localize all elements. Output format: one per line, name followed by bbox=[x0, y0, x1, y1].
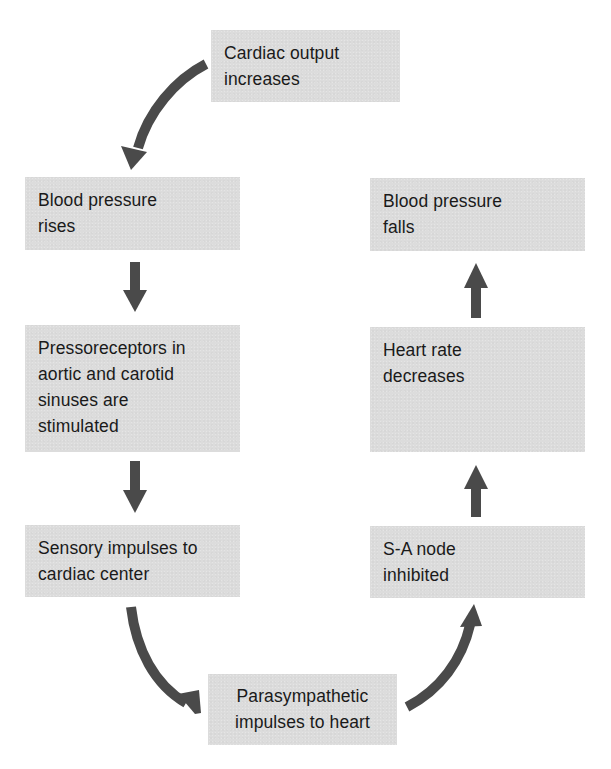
node-text-line: sinuses are bbox=[38, 387, 228, 413]
arrowhead-down-icon bbox=[123, 490, 147, 513]
node-text-line: rises bbox=[38, 213, 228, 239]
node-text-line: inhibited bbox=[383, 562, 573, 588]
arrow-sensory-to-parasympathetic bbox=[131, 607, 186, 703]
node-cardiac-output: Cardiac output increases bbox=[211, 30, 400, 102]
arrowhead-down-icon bbox=[123, 290, 147, 312]
arrowhead-up-icon bbox=[464, 263, 488, 288]
arrow-parasympathetic-to-sa-node bbox=[407, 625, 470, 707]
node-text-line: decreases bbox=[383, 363, 573, 389]
node-text-line: Parasympathetic bbox=[214, 683, 391, 709]
node-text-line: stimulated bbox=[38, 413, 228, 439]
node-text-line: Heart rate bbox=[383, 337, 573, 363]
node-text-line: Blood pressure bbox=[38, 187, 228, 213]
node-text-line: increases bbox=[224, 66, 388, 92]
node-bp-falls: Blood pressure falls bbox=[370, 178, 585, 251]
node-text-line: cardiac center bbox=[38, 561, 228, 587]
node-text-line: falls bbox=[383, 214, 573, 240]
cropped-caption-remnant bbox=[0, 0, 611, 3]
arrow-cardiac-to-bp-rises bbox=[138, 64, 206, 148]
node-text-line: Cardiac output bbox=[224, 40, 388, 66]
node-pressoreceptors: Pressoreceptors in aortic and carotid si… bbox=[25, 325, 240, 452]
node-text-line: Sensory impulses to bbox=[38, 535, 228, 561]
arrowhead-right-icon bbox=[178, 690, 201, 714]
arrowhead-up-icon bbox=[460, 604, 482, 627]
node-text-line: aortic and carotid bbox=[38, 361, 228, 387]
arrowhead-up-icon bbox=[464, 465, 488, 489]
node-bp-rises: Blood pressure rises bbox=[25, 177, 240, 250]
arrowhead-down-icon bbox=[121, 146, 147, 170]
node-parasympathetic: Parasympathetic impulses to heart bbox=[208, 674, 397, 745]
node-text-line: S-A node bbox=[383, 536, 573, 562]
node-sensory-impulses: Sensory impulses to cardiac center bbox=[25, 525, 240, 597]
node-heart-rate: Heart rate decreases bbox=[370, 327, 585, 452]
node-sa-node: S-A node inhibited bbox=[370, 526, 585, 598]
node-text-line: Blood pressure bbox=[383, 188, 573, 214]
node-text-line: impulses to heart bbox=[214, 709, 391, 735]
node-text-line: Pressoreceptors in bbox=[38, 335, 228, 361]
